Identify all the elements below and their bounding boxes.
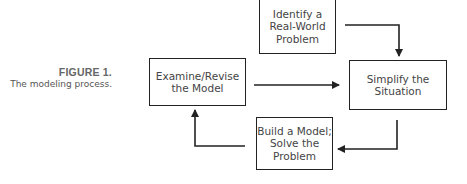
arrow-identify-to-simplify (345, 25, 399, 56)
arrow-build-to-examine (195, 110, 245, 146)
arrow-simplify-to-build (338, 120, 397, 149)
flow-arrows (0, 0, 467, 184)
